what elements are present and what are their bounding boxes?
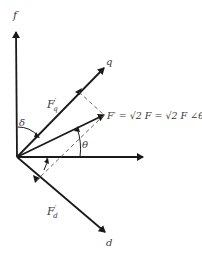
d-angle-arc <box>44 157 49 170</box>
fd-label: F′d <box>46 204 58 220</box>
f-axis-label: f <box>12 9 19 22</box>
d-axis-label: d <box>106 237 112 248</box>
delta-angle-arc <box>18 127 40 138</box>
f-prime-equation: F′ = √2 F = √2 F ∠θ <box>106 110 202 121</box>
f-axis <box>16 32 17 157</box>
theta-label: θ <box>82 139 88 150</box>
fq-label: F′q <box>46 97 58 113</box>
f-prime-vector <box>17 115 104 157</box>
q-axis <box>17 68 104 157</box>
d-axis <box>17 157 105 232</box>
q-axis-label: q <box>106 56 112 67</box>
delta-label: δ <box>19 117 25 128</box>
mmf-phasor-diagram: f q d δ θ F′q <box>0 0 202 266</box>
